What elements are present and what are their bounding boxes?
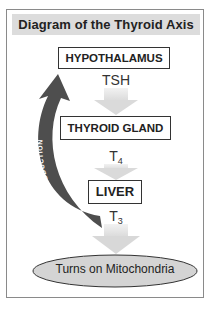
flow-arrow-t3: [92, 224, 140, 254]
hormone-t4-sub: 4: [118, 156, 123, 166]
node-hypothalamus: HYPOTHALAMUS: [58, 47, 170, 69]
feedback-arrow: TURNS DOWN PRODUCTION: [36, 74, 102, 229]
hormone-t3-base: T: [109, 208, 118, 224]
hormone-t4-base: T: [109, 148, 118, 164]
flow-arrow-t4: [94, 164, 138, 180]
hormone-t3-sub: 3: [118, 216, 123, 226]
node-mitochondria: Turns on Mitochondria: [33, 262, 197, 276]
node-liver: LIVER: [88, 180, 142, 204]
hormone-t4: T4: [104, 148, 128, 166]
node-thyroid-gland: THYROID GLAND: [60, 116, 171, 140]
hormone-t3: T3: [104, 208, 128, 226]
hormone-tsh: TSH: [98, 72, 134, 88]
flow-arrow-tsh: [94, 88, 138, 115]
